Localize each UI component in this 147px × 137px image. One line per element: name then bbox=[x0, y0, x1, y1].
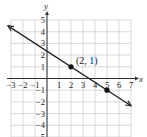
y-tick-label: −1 bbox=[36, 85, 45, 95]
x-tick-label: 7 bbox=[129, 80, 133, 90]
y-tick-label: 5 bbox=[41, 15, 45, 25]
y-axis-arrow-icon bbox=[45, 11, 49, 15]
coordinate-plane: −3−2−11234567−5−4−3−2−112345 x y (2, 1) bbox=[0, 0, 147, 137]
y-tick-label: −4 bbox=[36, 120, 46, 130]
x-tick-label: 3 bbox=[81, 80, 85, 90]
y-axis-label: y bbox=[43, 1, 48, 11]
x-tick-label: −2 bbox=[18, 80, 27, 90]
y-tick-label: −2 bbox=[36, 97, 45, 107]
x-tick-label: 1 bbox=[57, 80, 61, 90]
x-axis-label: x bbox=[138, 74, 143, 84]
x-tick-label: −3 bbox=[6, 80, 15, 90]
y-tick-label: 1 bbox=[41, 62, 45, 72]
tick-labels: −3−2−11234567−5−4−3−2−112345 bbox=[6, 15, 133, 137]
x-tick-label: 2 bbox=[69, 80, 73, 90]
data-point bbox=[104, 88, 109, 93]
y-tick-label: −3 bbox=[36, 109, 45, 119]
point-label: (2, 1) bbox=[76, 55, 98, 67]
y-tick-label: 2 bbox=[41, 50, 45, 60]
data-point bbox=[68, 64, 73, 69]
x-tick-label: 6 bbox=[117, 80, 121, 90]
y-tick-label: −5 bbox=[36, 132, 45, 137]
